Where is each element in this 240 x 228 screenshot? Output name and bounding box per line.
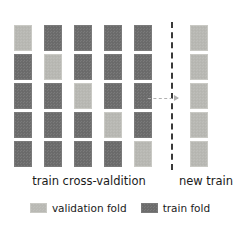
legend-entry-train: train fold xyxy=(141,202,210,214)
cross-validation-diagram: train cross-valdition new train validati… xyxy=(0,0,240,228)
train-fold-block xyxy=(44,112,62,138)
legend-label-train: train fold xyxy=(163,202,210,214)
caption-train-cross-validation: train cross-valdition xyxy=(14,174,164,188)
train-fold-block xyxy=(134,54,152,80)
validation-fold-block xyxy=(134,141,152,167)
validation-fold-block xyxy=(190,141,208,167)
train-fold-swatch-icon xyxy=(141,203,158,213)
train-fold-block xyxy=(74,25,92,51)
train-fold-block xyxy=(104,54,122,80)
validation-fold-block xyxy=(190,25,208,51)
cv-fold-column-3 xyxy=(74,25,92,167)
cv-fold-column-2 xyxy=(44,25,62,167)
train-fold-block xyxy=(44,25,62,51)
cv-fold-column-4 xyxy=(104,25,122,167)
caption-new-train: new train xyxy=(176,174,236,188)
train-fold-block xyxy=(14,54,32,80)
validation-fold-block xyxy=(104,112,122,138)
train-fold-block xyxy=(134,25,152,51)
validation-fold-block xyxy=(190,83,208,109)
train-fold-block xyxy=(14,112,32,138)
train-fold-block xyxy=(14,83,32,109)
transfer-arrow-icon xyxy=(148,98,178,99)
legend: validation foldtrain fold xyxy=(0,202,240,214)
validation-fold-block xyxy=(74,83,92,109)
train-fold-block xyxy=(44,141,62,167)
cv-fold-column-1 xyxy=(14,25,32,167)
train-fold-block xyxy=(74,112,92,138)
arrow-head xyxy=(174,95,179,101)
validation-fold-block xyxy=(14,25,32,51)
train-fold-block xyxy=(134,83,152,109)
train-fold-block xyxy=(104,83,122,109)
train-fold-block xyxy=(134,112,152,138)
validation-fold-block xyxy=(44,54,62,80)
new-train-column xyxy=(190,25,208,167)
legend-label-validation: validation fold xyxy=(52,202,127,214)
validation-fold-block xyxy=(190,112,208,138)
train-fold-block xyxy=(104,25,122,51)
train-fold-block xyxy=(74,141,92,167)
train-fold-block xyxy=(44,83,62,109)
validation-fold-swatch-icon xyxy=(30,203,47,213)
validation-fold-block xyxy=(190,54,208,80)
train-fold-block xyxy=(104,141,122,167)
train-fold-block xyxy=(74,54,92,80)
cv-fold-column-5 xyxy=(134,25,152,167)
train-fold-block xyxy=(14,141,32,167)
legend-entry-validation: validation fold xyxy=(30,202,127,214)
section-divider-dashed-line xyxy=(171,22,173,170)
